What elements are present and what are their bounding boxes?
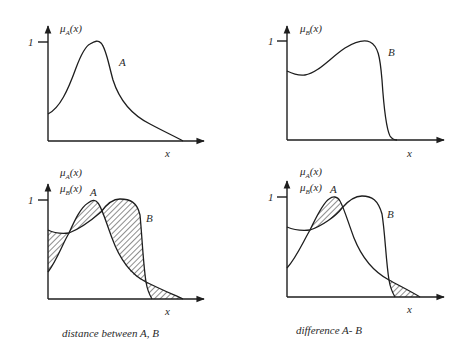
tick-label-one: 1 <box>268 191 274 203</box>
curve-b <box>287 196 395 297</box>
fuzzy-set-diagram: 1 μA(x) A x 1 μB(x) B x 1 μA(x) μB(x) A … <box>0 0 470 361</box>
panel-distance: 1 μA(x) μB(x) A B x distance between A, … <box>28 166 204 339</box>
y-axis-label-mu-a: μA(x) <box>299 165 322 180</box>
curve-label-a: A <box>329 183 337 195</box>
curve-label-b: B <box>388 46 395 58</box>
x-axis-label: x <box>164 147 170 159</box>
hatched-region-b-over-a-left <box>48 230 69 272</box>
curve-label-b: B <box>387 208 394 220</box>
y-axis-label-mu-b: μB(x) <box>59 182 82 197</box>
curve-label-a: A <box>118 56 126 68</box>
panel-membership-b: 1 μB(x) B x <box>268 22 444 159</box>
x-axis-label: x <box>164 305 170 317</box>
y-axis-label-mu-a: μA(x) <box>59 22 82 37</box>
panel-membership-a: 1 μA(x) A x <box>28 22 204 159</box>
curve-b <box>287 41 397 140</box>
y-axis-label-mu-b: μB(x) <box>299 181 322 196</box>
caption-distance: distance between A, B <box>62 327 159 339</box>
curve-label-b: B <box>146 212 153 224</box>
x-axis-label: x <box>406 147 412 159</box>
curve-a <box>48 41 183 141</box>
y-axis-label-mu-b: μB(x) <box>299 22 322 37</box>
x-axis-label: x <box>406 303 412 315</box>
tick-label-one: 1 <box>268 35 274 47</box>
curve-label-a: A <box>89 186 97 198</box>
tick-label-one: 1 <box>28 194 34 206</box>
tick-label-one: 1 <box>28 36 34 48</box>
curve-a <box>287 197 420 297</box>
y-axis-label-mu-a: μA(x) <box>59 166 82 181</box>
caption-difference: difference A- B <box>296 324 362 336</box>
panel-difference: 1 μA(x) μB(x) A B x difference A- B <box>268 165 444 336</box>
